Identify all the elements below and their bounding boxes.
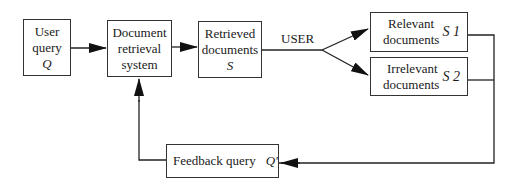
irrelevant-docs-symbol: S 2 (443, 69, 461, 85)
relevant-docs-symbol: S 1 (443, 24, 461, 40)
user-query-symbol: Q (42, 56, 51, 72)
retrieval-system-line1: Document (112, 25, 166, 41)
retrieval-system-box: Document retrieval system (107, 20, 172, 77)
relevant-docs-box: Relevant documents S 1 (370, 12, 468, 52)
user-query-line1: User (35, 24, 60, 40)
retrieved-docs-symbol: S (227, 58, 234, 74)
arrow-to-relevant (322, 29, 368, 50)
edge-label-user: USER (281, 31, 314, 47)
retrieval-system-line3: system (121, 57, 157, 73)
user-query-box: User query Q (23, 19, 71, 76)
irrelevant-docs-line1: Irrelevant (383, 61, 438, 77)
irrelevant-docs-line2: documents (383, 77, 439, 93)
retrieved-docs-line1: Retrieved (205, 26, 256, 42)
relevant-docs-line1: Relevant (383, 16, 434, 32)
feedback-query-label: Feedback query (173, 153, 256, 169)
feedback-query-symbol: Q' (266, 153, 278, 169)
user-query-line2: query (32, 40, 62, 56)
irrelevant-docs-box: Irrelevant documents S 2 (370, 57, 468, 96)
feedback-query-box: Feedback query Q' (166, 144, 279, 178)
line-feedback-loop (139, 100, 166, 160)
arrow-to-irrelevant (322, 50, 368, 75)
relevant-docs-line2: documents (383, 32, 439, 48)
retrieval-system-line2: retrieval (118, 41, 161, 57)
retrieved-docs-line2: documents (202, 42, 258, 58)
retrieved-docs-box: Retrieved documents S (198, 21, 262, 78)
